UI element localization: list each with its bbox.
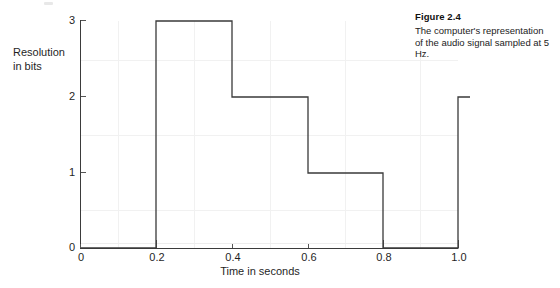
x-tick-label-0: 0 xyxy=(64,251,98,263)
figure-caption-body: The computer's representation of the aud… xyxy=(415,25,551,60)
grid-lines xyxy=(81,21,458,248)
x-tick-label-0-8: 0.8 xyxy=(367,251,401,263)
chart-axes xyxy=(81,20,459,249)
y-tick-label-2: 2 xyxy=(57,90,75,102)
figure-container: Resolution in bits Time in seconds 3 2 1… xyxy=(0,0,560,288)
step-waveform xyxy=(81,21,470,248)
x-tick-label-0-2: 0.2 xyxy=(140,251,174,263)
y-axis-title: Resolution in bits xyxy=(13,45,89,73)
x-axis-title: Time in seconds xyxy=(180,264,340,278)
x-tick-label-0-4: 0.4 xyxy=(216,251,250,263)
x-tick-label-0-6: 0.6 xyxy=(292,251,326,263)
axis-ticks xyxy=(81,21,459,249)
x-tick-label-1-0: 1.0 xyxy=(442,251,476,263)
y-tick-label-1: 1 xyxy=(57,166,75,178)
figure-caption-title: Figure 2.4 xyxy=(415,11,551,22)
figure-caption: Figure 2.4 The computer's representation… xyxy=(415,11,551,60)
y-tick-label-3: 3 xyxy=(57,14,75,26)
